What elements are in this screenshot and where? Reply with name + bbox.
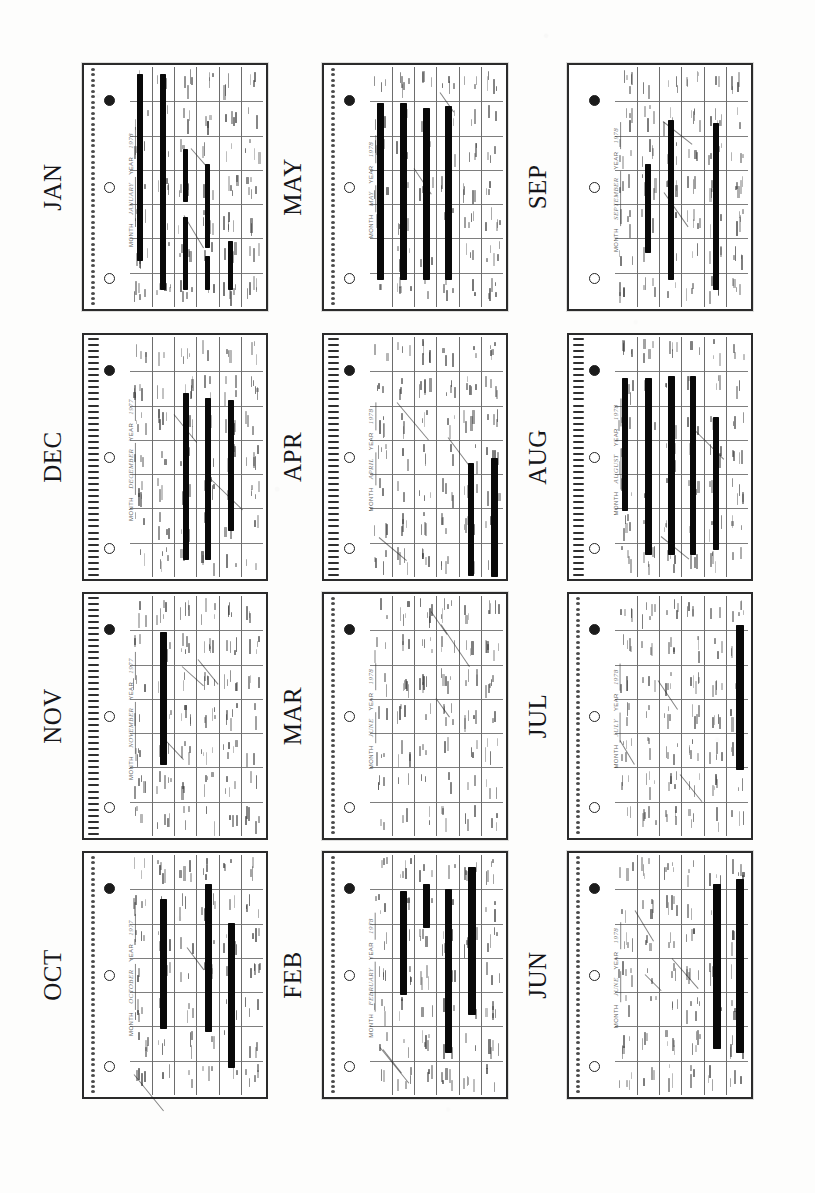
calendar-page-oct[interactable]: MONTH OCTOBER YEAR 1977 bbox=[82, 851, 268, 1099]
calendar-day-cell[interactable] bbox=[638, 992, 659, 1026]
calendar-day-cell[interactable] bbox=[175, 924, 196, 958]
calendar-day-cell[interactable] bbox=[705, 665, 726, 699]
calendar-day-cell[interactable] bbox=[153, 440, 174, 474]
calendar-day-cell[interactable] bbox=[415, 406, 436, 440]
calendar-day-cell[interactable] bbox=[175, 992, 196, 1026]
calendar-day-cell[interactable] bbox=[682, 767, 703, 801]
calendar-day-cell[interactable] bbox=[220, 596, 241, 630]
calendar-day-cell[interactable] bbox=[175, 337, 196, 371]
calendar-day-cell[interactable] bbox=[727, 1061, 748, 1095]
calendar-day-cell[interactable] bbox=[437, 802, 458, 836]
calendar-day-cell[interactable] bbox=[638, 699, 659, 733]
calendar-day-cell[interactable] bbox=[415, 665, 436, 699]
calendar-day-cell[interactable] bbox=[727, 767, 748, 801]
calendar-day-cell[interactable] bbox=[682, 889, 703, 923]
calendar-day-cell[interactable] bbox=[242, 1061, 263, 1095]
calendar-day-cell[interactable] bbox=[197, 101, 218, 135]
calendar-day-cell[interactable] bbox=[460, 665, 481, 699]
calendar-day-cell[interactable] bbox=[242, 630, 263, 664]
calendar-day-cell[interactable] bbox=[393, 474, 414, 508]
calendar-day-cell[interactable] bbox=[415, 474, 436, 508]
calendar-day-cell[interactable] bbox=[415, 924, 436, 958]
calendar-day-cell[interactable] bbox=[482, 101, 503, 135]
calendar-day-cell[interactable] bbox=[242, 958, 263, 992]
calendar-day-cell[interactable] bbox=[242, 1026, 263, 1060]
calendar-day-cell[interactable] bbox=[460, 406, 481, 440]
calendar-day-cell[interactable] bbox=[660, 889, 681, 923]
calendar-day-cell[interactable] bbox=[197, 802, 218, 836]
calendar-day-cell[interactable] bbox=[242, 665, 263, 699]
calendar-day-cell[interactable] bbox=[482, 992, 503, 1026]
calendar-day-cell[interactable] bbox=[197, 630, 218, 664]
calendar-day-cell[interactable] bbox=[437, 855, 458, 889]
calendar-day-cell[interactable] bbox=[705, 767, 726, 801]
calendar-day-cell[interactable] bbox=[660, 958, 681, 992]
calendar-day-cell[interactable] bbox=[682, 204, 703, 238]
calendar-day-cell[interactable] bbox=[393, 992, 414, 1026]
calendar-day-cell[interactable] bbox=[682, 337, 703, 371]
calendar-day-cell[interactable] bbox=[153, 855, 174, 889]
calendar-day-cell[interactable] bbox=[638, 273, 659, 307]
calendar-day-cell[interactable] bbox=[638, 767, 659, 801]
calendar-day-cell[interactable] bbox=[460, 630, 481, 664]
calendar-day-cell[interactable] bbox=[415, 802, 436, 836]
calendar-day-cell[interactable] bbox=[460, 596, 481, 630]
calendar-day-cell[interactable] bbox=[393, 855, 414, 889]
calendar-day-cell[interactable] bbox=[393, 802, 414, 836]
calendar-day-cell[interactable] bbox=[727, 440, 748, 474]
calendar-day-cell[interactable] bbox=[153, 596, 174, 630]
calendar-day-cell[interactable] bbox=[682, 992, 703, 1026]
calendar-day-cell[interactable] bbox=[482, 170, 503, 204]
calendar-day-cell[interactable] bbox=[242, 802, 263, 836]
calendar-day-cell[interactable] bbox=[153, 543, 174, 577]
calendar-day-cell[interactable] bbox=[220, 170, 241, 204]
calendar-day-cell[interactable] bbox=[705, 371, 726, 405]
calendar-day-cell[interactable] bbox=[197, 1061, 218, 1095]
calendar-day-cell[interactable] bbox=[153, 406, 174, 440]
calendar-day-cell[interactable] bbox=[242, 371, 263, 405]
calendar-day-cell[interactable] bbox=[682, 238, 703, 272]
calendar-day-cell[interactable] bbox=[393, 630, 414, 664]
calendar-day-cell[interactable] bbox=[175, 1026, 196, 1060]
calendar-day-cell[interactable] bbox=[220, 204, 241, 238]
calendar-page-feb[interactable]: MONTH FEBRUARY YEAR 1978 bbox=[322, 851, 508, 1099]
calendar-day-cell[interactable] bbox=[153, 371, 174, 405]
calendar-day-cell[interactable] bbox=[727, 67, 748, 101]
calendar-day-cell[interactable] bbox=[482, 802, 503, 836]
calendar-day-cell[interactable] bbox=[482, 596, 503, 630]
calendar-day-cell[interactable] bbox=[220, 136, 241, 170]
calendar-day-cell[interactable] bbox=[220, 337, 241, 371]
calendar-day-cell[interactable] bbox=[393, 1026, 414, 1060]
calendar-day-cell[interactable] bbox=[220, 67, 241, 101]
calendar-day-cell[interactable] bbox=[682, 924, 703, 958]
calendar-day-cell[interactable] bbox=[175, 889, 196, 923]
calendar-day-cell[interactable] bbox=[682, 273, 703, 307]
calendar-day-cell[interactable] bbox=[705, 1061, 726, 1095]
calendar-day-cell[interactable] bbox=[242, 440, 263, 474]
calendar-day-cell[interactable] bbox=[393, 67, 414, 101]
calendar-day-cell[interactable] bbox=[175, 802, 196, 836]
calendar-day-cell[interactable] bbox=[437, 337, 458, 371]
calendar-day-cell[interactable] bbox=[242, 474, 263, 508]
calendar-day-cell[interactable] bbox=[197, 767, 218, 801]
calendar-day-cell[interactable] bbox=[242, 170, 263, 204]
calendar-day-cell[interactable] bbox=[175, 67, 196, 101]
calendar-day-cell[interactable] bbox=[660, 992, 681, 1026]
calendar-day-cell[interactable] bbox=[242, 67, 263, 101]
calendar-day-cell[interactable] bbox=[638, 1026, 659, 1060]
calendar-day-cell[interactable] bbox=[415, 508, 436, 542]
calendar-day-cell[interactable] bbox=[660, 767, 681, 801]
calendar-day-cell[interactable] bbox=[220, 855, 241, 889]
calendar-day-cell[interactable] bbox=[197, 699, 218, 733]
calendar-day-cell[interactable] bbox=[242, 733, 263, 767]
calendar-day-cell[interactable] bbox=[482, 337, 503, 371]
calendar-day-cell[interactable] bbox=[660, 855, 681, 889]
calendar-day-cell[interactable] bbox=[705, 596, 726, 630]
calendar-day-cell[interactable] bbox=[242, 767, 263, 801]
calendar-day-cell[interactable] bbox=[482, 733, 503, 767]
calendar-day-cell[interactable] bbox=[460, 699, 481, 733]
calendar-day-cell[interactable] bbox=[393, 733, 414, 767]
calendar-day-cell[interactable] bbox=[727, 406, 748, 440]
calendar-day-cell[interactable] bbox=[197, 596, 218, 630]
calendar-day-cell[interactable] bbox=[153, 802, 174, 836]
